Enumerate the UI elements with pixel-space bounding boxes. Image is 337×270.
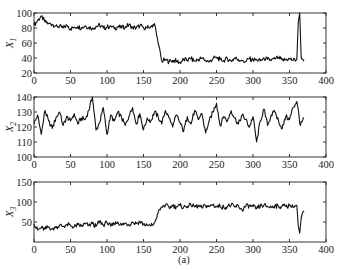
y-tick-label: 150 xyxy=(16,177,32,188)
x-tick-label: 0 xyxy=(31,244,36,255)
x-tick-label: 250 xyxy=(209,75,225,86)
y-axis-label: X3 xyxy=(3,207,18,219)
series-line xyxy=(34,97,304,142)
x-tick-label: 50 xyxy=(65,244,76,255)
x-tick-label: 400 xyxy=(318,244,334,255)
subplot-x2: 050100150200250300350400100110120130140X… xyxy=(3,92,334,171)
figure-caption: (a) xyxy=(178,254,190,265)
y-tick-label: 100 xyxy=(16,197,32,208)
chart-figure: 05010015020025030035040020406080100X1050… xyxy=(0,0,337,270)
x-tick-label: 100 xyxy=(99,244,115,255)
y-tick-label: 20 xyxy=(22,68,33,79)
x-tick-label: 300 xyxy=(245,244,261,255)
y-tick-label: 40 xyxy=(22,53,33,64)
x-tick-label: 200 xyxy=(172,159,188,170)
y-tick-label: 100 xyxy=(16,8,32,19)
x-tick-label: 350 xyxy=(282,244,298,255)
y-tick-label: 50 xyxy=(22,217,33,228)
x-tick-label: 350 xyxy=(282,75,298,86)
x-tick-label: 100 xyxy=(99,159,115,170)
x-tick-label: 0 xyxy=(31,159,36,170)
x-tick-label: 150 xyxy=(136,75,152,86)
x-tick-label: 400 xyxy=(318,159,334,170)
subplot-x3: 05010015020025030035040050100150X3 xyxy=(3,177,334,256)
y-tick-label: 140 xyxy=(16,92,32,103)
series-line xyxy=(34,203,304,233)
x-tick-label: 100 xyxy=(99,75,115,86)
x-tick-label: 150 xyxy=(136,159,152,170)
x-tick-label: 250 xyxy=(209,159,225,170)
x-tick-label: 400 xyxy=(318,75,334,86)
y-tick-label: 80 xyxy=(22,23,33,34)
y-axis-label: X1 xyxy=(3,38,18,50)
x-tick-label: 150 xyxy=(136,244,152,255)
axes-frame xyxy=(34,182,326,242)
x-tick-label: 300 xyxy=(245,75,261,86)
y-tick-label: 110 xyxy=(17,137,32,148)
x-tick-label: 350 xyxy=(282,159,298,170)
y-tick-label: 120 xyxy=(16,122,32,133)
series-line xyxy=(34,13,304,64)
x-tick-label: 50 xyxy=(65,75,76,86)
x-tick-label: 0 xyxy=(31,75,36,86)
y-tick-label: 130 xyxy=(16,107,32,118)
x-tick-label: 200 xyxy=(172,75,188,86)
x-tick-label: 50 xyxy=(65,159,76,170)
subplot-x1: 05010015020025030035040020406080100X1 xyxy=(3,8,334,87)
y-tick-label: 100 xyxy=(16,152,32,163)
y-tick-label: 60 xyxy=(22,38,33,49)
x-tick-label: 300 xyxy=(245,159,261,170)
axes-frame xyxy=(34,13,326,73)
x-tick-label: 250 xyxy=(209,244,225,255)
